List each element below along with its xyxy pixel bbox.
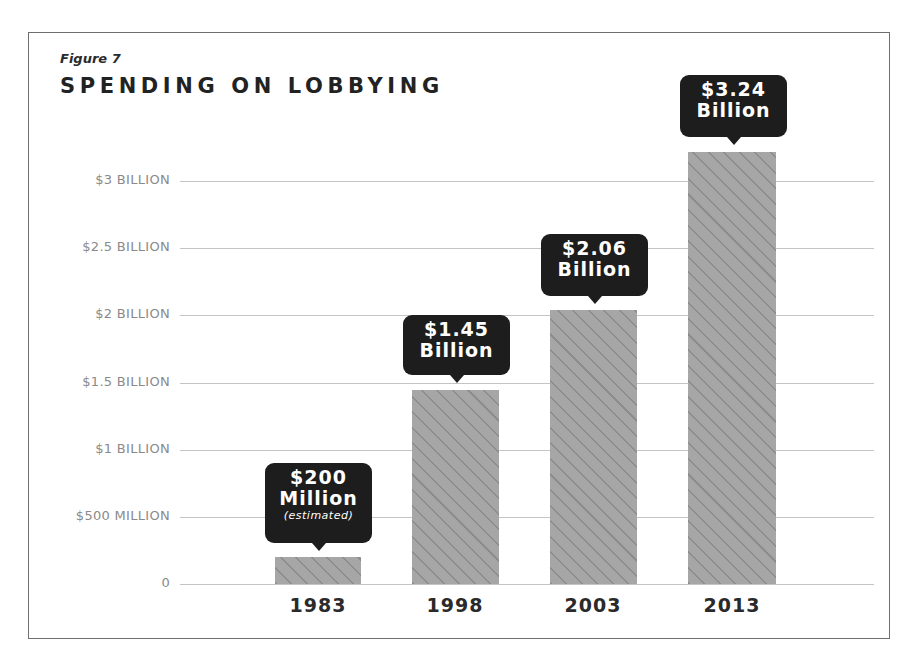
bar-2013 [688,152,776,584]
y-tick-label: $1.5 BILLION [30,374,170,389]
callout-value: $2.06 [541,238,648,259]
callout-unit: Million [265,488,372,509]
y-tick-label: $1 BILLION [30,441,170,456]
callout-unit: Billion [403,340,510,361]
callout-value: $200 [265,467,372,488]
x-tick-label: 1983 [268,594,368,616]
gridline-0 [180,584,874,585]
x-tick-label: 2013 [682,594,782,616]
value-callout-1998: $1.45 Billion [403,315,510,375]
callout-note: (estimated) [265,509,372,522]
value-callout-2013: $3.24 Billion [680,75,787,137]
x-tick-label: 1998 [405,594,505,616]
callout-value: $1.45 [403,319,510,340]
y-tick-label: $2.5 BILLION [30,239,170,254]
y-tick-label: 0 [30,575,170,590]
y-tick-label: $500 MILLION [30,508,170,523]
chart-title: SPENDING ON LOBBYING [60,74,444,98]
y-tick-label: $3 BILLION [30,172,170,187]
callout-unit: Billion [541,259,648,280]
bar-1983 [275,557,361,584]
value-callout-1983: $200 Million (estimated) [265,463,372,543]
y-tick-label: $2 BILLION [30,306,170,321]
x-tick-label: 2003 [543,594,643,616]
bar-1998 [412,390,499,584]
value-callout-2003: $2.06 Billion [541,234,648,296]
bar-2003 [550,310,637,584]
callout-value: $3.24 [680,79,787,100]
figure-label: Figure 7 [60,51,121,66]
callout-unit: Billion [680,100,787,121]
